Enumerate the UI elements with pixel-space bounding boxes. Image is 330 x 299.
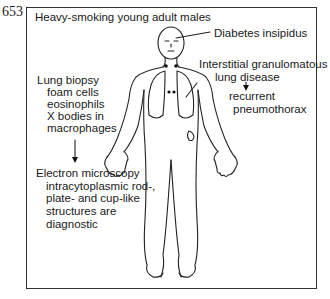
em-item-3: structures are [46,205,116,218]
title-label: Heavy-smoking young adult males [35,11,211,24]
complication-label-2: pneumothorax [233,103,307,116]
em-title: Electron microscopy [36,167,140,180]
complication-label-1: recurrent [229,90,275,103]
em-item-2: plate- and cup-like [46,192,140,205]
head-label: Diabetes insipidus [214,27,307,40]
human-body-outline-icon [0,0,330,299]
em-item-4: diagnostic [46,218,98,231]
biopsy-item-4: macrophages [47,122,117,135]
lung-label-2: lung disease [215,71,280,84]
lung-label-1: Interstitial granulomatous [199,58,327,71]
